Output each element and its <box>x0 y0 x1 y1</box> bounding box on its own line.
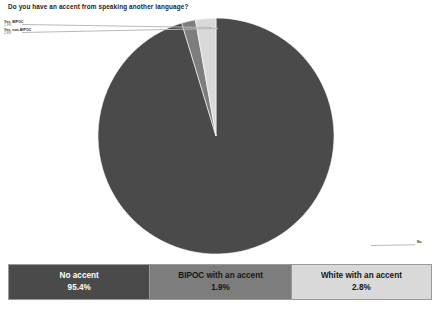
legend-cell-label: No accent <box>60 271 99 281</box>
legend-cell-value: 1.9% <box>211 283 230 293</box>
pie-chart-svg <box>96 16 336 256</box>
callout-no-accent: No <box>417 241 422 245</box>
legend-cell-no-accent[interactable]: No accent95.4% <box>9 265 150 299</box>
legend-cell-value: 95.4% <box>68 283 91 293</box>
legend-cell-label: White with an accent <box>321 271 402 281</box>
legend-cell-label: BIPOC with an accent <box>178 271 263 281</box>
leader-line-no-accent <box>371 244 415 246</box>
pie-chart <box>96 16 336 256</box>
callout-non-bipoc: Yes, non-BIPOC 2.8% <box>4 28 31 36</box>
page-title: Do you have an accent from speaking anot… <box>8 3 308 11</box>
callout-bipoc: Yes, BIPOC 1.9% <box>4 20 24 28</box>
legend-cell-bipoc-with-an-accent[interactable]: BIPOC with an accent1.9% <box>150 265 291 299</box>
legend-bar: No accent95.4%BIPOC with an accent1.9%Wh… <box>8 264 432 300</box>
slide-canvas: Do you have an accent from speaking anot… <box>0 0 441 313</box>
legend-cell-value: 2.8% <box>352 283 371 293</box>
callout-no-accent-label: No <box>417 241 422 245</box>
legend-cell-white-with-an-accent[interactable]: White with an accent2.8% <box>292 265 431 299</box>
callout-non-bipoc-value: 2.8% <box>4 32 31 36</box>
